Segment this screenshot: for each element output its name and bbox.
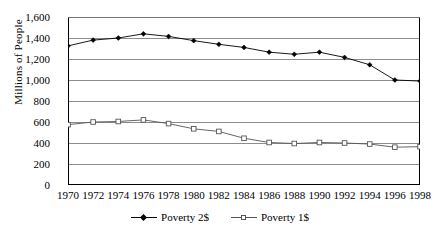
data-point-marker xyxy=(217,129,222,134)
data-point-marker xyxy=(141,31,146,36)
plot-svg xyxy=(68,17,420,185)
x-axis-tick-labels: 1970197219741976197819801982198419861988… xyxy=(0,189,440,205)
series-line-1 xyxy=(68,34,420,81)
x-tick-label: 1984 xyxy=(233,189,255,201)
data-point-marker xyxy=(242,45,247,50)
x-tick-label: 1996 xyxy=(384,189,406,201)
data-point-marker xyxy=(292,141,297,146)
x-tick-label: 1982 xyxy=(208,189,230,201)
y-tick-label: 600 xyxy=(8,117,50,127)
data-point-marker xyxy=(191,38,196,43)
data-point-marker xyxy=(418,144,420,149)
y-tick-label: 1,600 xyxy=(8,12,50,22)
x-tick-label: 1976 xyxy=(132,189,154,201)
diamond-marker-icon xyxy=(131,212,157,222)
legend-label: Poverty 1$ xyxy=(261,211,309,223)
data-point-marker xyxy=(141,118,146,123)
legend-item-1[interactable]: Poverty 2$ xyxy=(131,211,209,223)
data-point-marker xyxy=(166,121,171,126)
data-point-marker xyxy=(342,141,347,146)
legend-label: Poverty 2$ xyxy=(161,211,209,223)
y-tick-label: 1,000 xyxy=(8,75,50,85)
poverty-line-chart: Millions of People 02004006008001,0001,2… xyxy=(0,0,440,239)
data-point-marker xyxy=(292,52,297,57)
data-point-marker xyxy=(242,136,247,141)
x-tick-label: 1974 xyxy=(107,189,129,201)
x-tick-label: 1994 xyxy=(359,189,381,201)
y-tick-label: 1,400 xyxy=(8,33,50,43)
data-point-marker xyxy=(116,36,121,41)
data-point-marker xyxy=(267,50,272,55)
data-point-marker xyxy=(367,62,372,67)
data-point-marker xyxy=(68,122,70,127)
data-point-marker xyxy=(392,78,397,83)
data-point-marker xyxy=(191,127,196,132)
data-point-marker xyxy=(267,140,272,145)
x-tick-label: 1998 xyxy=(409,189,431,201)
plot-area xyxy=(68,17,420,185)
x-tick-label: 1978 xyxy=(158,189,180,201)
square-marker-icon xyxy=(231,212,257,222)
data-point-marker xyxy=(317,50,322,55)
data-point-marker xyxy=(317,140,322,145)
x-tick-label: 1988 xyxy=(283,189,305,201)
legend-item-2[interactable]: Poverty 1$ xyxy=(231,211,309,223)
data-point-marker xyxy=(216,42,221,47)
x-tick-label: 1986 xyxy=(258,189,280,201)
x-tick-label: 1972 xyxy=(82,189,104,201)
x-tick-label: 1980 xyxy=(183,189,205,201)
y-tick-label: 1,200 xyxy=(8,54,50,64)
data-point-marker xyxy=(367,142,372,147)
y-tick-label: 800 xyxy=(8,96,50,106)
y-tick-label: 200 xyxy=(8,159,50,169)
data-point-marker xyxy=(116,119,121,124)
x-tick-label: 1990 xyxy=(308,189,330,201)
data-point-marker xyxy=(393,145,398,150)
data-point-marker xyxy=(418,79,420,84)
y-tick-label: 400 xyxy=(8,138,50,148)
x-tick-label: 1992 xyxy=(334,189,356,201)
data-point-marker xyxy=(68,43,70,48)
data-point-marker xyxy=(91,120,96,125)
x-tick-label: 1970 xyxy=(57,189,79,201)
chart-legend: Poverty 2$Poverty 1$ xyxy=(0,211,440,223)
